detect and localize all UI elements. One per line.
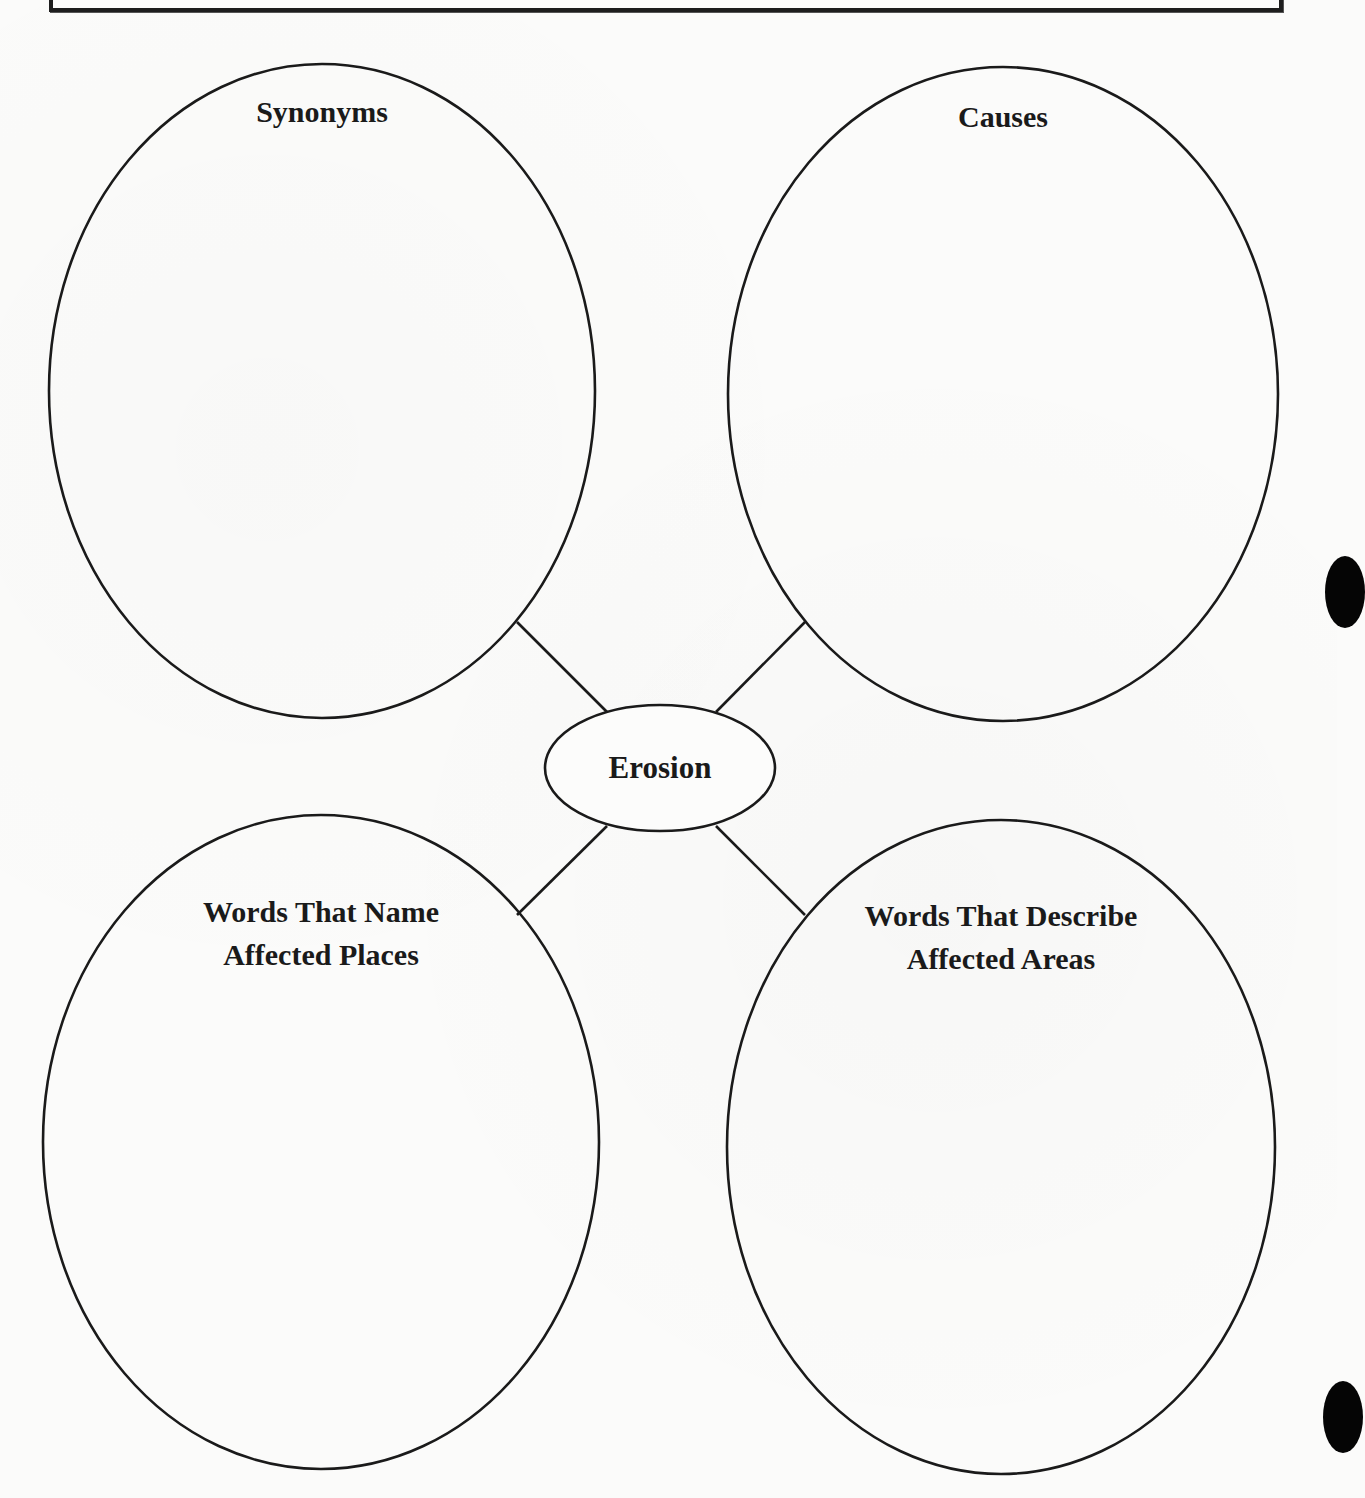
bubble-causes[interactable] [728, 67, 1278, 721]
connector-top-left [517, 622, 607, 712]
bubble-label-synonyms: Synonyms [172, 90, 472, 133]
connector-bottom-right [716, 826, 805, 915]
bubble-label-line: Synonyms [172, 90, 472, 133]
bubble-label-line: Affected Places [121, 933, 521, 976]
center-topic-text: Erosion [560, 746, 760, 789]
connector-bottom-left [517, 826, 607, 915]
bubble-label-line: Affected Areas [801, 937, 1201, 980]
bubble-label-affected-areas: Words That Describe Affected Areas [801, 894, 1201, 980]
connector-top-right [716, 622, 805, 712]
bubble-label-line: Causes [853, 95, 1153, 138]
bubble-label-affected-places: Words That Name Affected Places [121, 890, 521, 976]
bubble-label-line: Words That Describe [801, 894, 1201, 937]
bubble-label-causes: Causes [853, 95, 1153, 138]
center-topic-label: Erosion [560, 746, 760, 789]
bubble-label-line: Words That Name [121, 890, 521, 933]
bubble-synonyms[interactable] [49, 64, 595, 718]
binder-hole-icon [1325, 556, 1365, 628]
binder-hole-icon [1323, 1381, 1363, 1453]
